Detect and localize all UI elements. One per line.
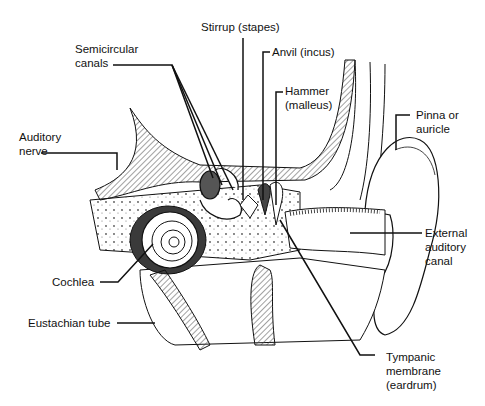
label-line: auditory xyxy=(425,240,467,254)
label-external-auditory-canal: External auditory canal xyxy=(425,226,467,268)
label-line: nerve xyxy=(19,144,61,158)
external-canal-shape xyxy=(285,208,385,255)
label-line: canal xyxy=(425,254,467,268)
label-anvil: Anvil (incus) xyxy=(272,45,335,59)
label-line: Hammer xyxy=(285,84,332,98)
label-cochlea: Cochlea xyxy=(52,275,94,289)
label-pinna: Pinna or auricle xyxy=(416,108,459,136)
cochlea-shape xyxy=(130,206,206,274)
label-line: (eardrum) xyxy=(386,378,441,392)
label-line: auricle xyxy=(416,122,459,136)
label-stirrup: Stirrup (stapes) xyxy=(201,20,280,34)
label-line: Pinna or xyxy=(416,108,459,122)
label-tympanic-membrane: Tympanic membrane (eardrum) xyxy=(386,350,441,392)
label-line: Tympanic xyxy=(386,350,441,364)
label-line: membrane xyxy=(386,364,441,378)
label-line: Eustachian tube xyxy=(28,316,110,330)
label-line: External xyxy=(425,226,467,240)
label-auditory-nerve: Auditory nerve xyxy=(19,130,61,158)
label-hammer: Hammer (malleus) xyxy=(285,84,332,112)
label-line: Anvil (incus) xyxy=(272,45,335,59)
label-semicircular-canals: Semicircular canals xyxy=(75,42,138,70)
label-line: canals xyxy=(75,56,138,70)
label-line: Semicircular xyxy=(75,42,138,56)
label-eustachian-tube: Eustachian tube xyxy=(28,316,110,330)
ear-anatomy-illustration xyxy=(0,0,485,406)
label-line: Cochlea xyxy=(52,275,94,289)
label-line: Stirrup (stapes) xyxy=(201,20,280,34)
label-line: Auditory xyxy=(19,130,61,144)
label-line: (malleus) xyxy=(285,98,332,112)
